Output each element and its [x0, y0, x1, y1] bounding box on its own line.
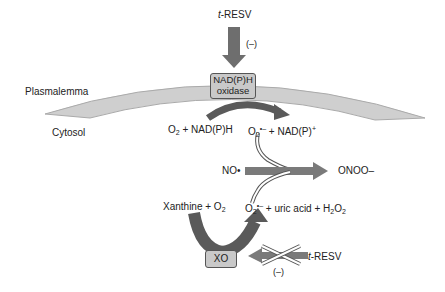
xo-curved-arrow: [194, 213, 255, 252]
resv-label-top: t-RESV: [218, 10, 251, 20]
resv-inhibit-arrow-head: [222, 55, 246, 68]
inhibit-label-bottom: (–): [273, 268, 284, 277]
reaction1-left: O2 + NAD(P)H: [168, 125, 233, 136]
nadph-oxidase-box: NAD(P)H oxidase: [210, 73, 256, 99]
cytosol-label: Cytosol: [52, 128, 85, 138]
peroxynitrite-label: ONOO–: [338, 166, 374, 176]
plasmalemma-label: Plasmalemma: [25, 87, 88, 97]
resv-inhibit-arrow-shaft: [228, 27, 240, 57]
no-radical-label: NO•: [222, 166, 241, 176]
nadph-curved-arrow: [208, 105, 280, 118]
reaction2-left: Xanthine + O2: [163, 202, 226, 213]
inhibit-label-top: (–): [246, 40, 257, 49]
reaction2-right: O2•– + uric acid + H2O2: [245, 202, 346, 215]
xanthine-oxidase-box: XO: [205, 250, 237, 268]
reaction1-right: O2•– + NAD(P)+: [248, 125, 316, 138]
resv-label-bottom: t-RESV: [308, 252, 341, 262]
pathway-graphics: [0, 0, 445, 292]
